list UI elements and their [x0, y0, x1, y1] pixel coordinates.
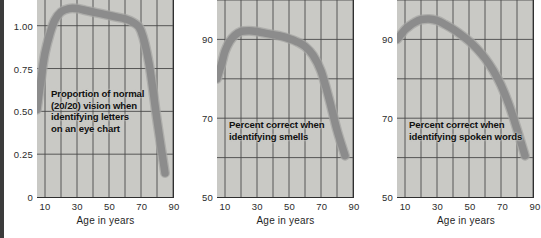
- x-tick-label: 90: [169, 201, 180, 212]
- y-tick-label: 0.75: [14, 64, 33, 73]
- x-tick-label: 10: [40, 201, 51, 212]
- panel-caption-smell: Percent correct when identifying smells: [229, 119, 357, 142]
- chart-panel-vision: 00.250.500.751.00 1030507090 Proportion …: [4, 0, 180, 238]
- x-tick-label: 50: [104, 201, 115, 212]
- y-tick-label: 70: [382, 114, 393, 123]
- y-axis-ticks-speech: 507090: [364, 0, 393, 197]
- x-tick-label: 50: [465, 201, 476, 212]
- x-tick-label: 70: [316, 201, 327, 212]
- x-tick-label: 30: [432, 201, 443, 212]
- x-axis-ticks-vision: 1030507090: [37, 198, 174, 214]
- y-tick-label: 0.25: [14, 150, 33, 159]
- x-tick-label: 70: [497, 201, 508, 212]
- x-tick-label: 30: [252, 201, 263, 212]
- chart-panel-smell: 507090 1030507090 Percent correct when i…: [184, 0, 360, 238]
- y-tick-label: 1.00: [14, 21, 33, 30]
- x-tick-label: 90: [530, 201, 541, 212]
- y-tick-label: 50: [202, 193, 213, 202]
- plot-svg-speech: [397, 0, 533, 197]
- y-axis-ticks-vision: 00.250.500.751.00: [4, 0, 33, 197]
- x-axis-label-speech: Age in years: [397, 215, 535, 226]
- x-axis-ticks-smell: 1030507090: [217, 198, 354, 214]
- plot-area-speech: [397, 0, 534, 198]
- x-tick-label: 50: [284, 201, 295, 212]
- x-tick-label: 90: [349, 201, 360, 212]
- plot-svg-smell: [217, 0, 353, 197]
- y-tick-label: 90: [202, 35, 213, 44]
- x-axis-ticks-speech: 1030507090: [397, 198, 535, 214]
- panel-caption-vision: Proportion of normal (20/20) vision when…: [51, 88, 176, 134]
- plot-area-smell: [217, 0, 354, 198]
- y-tick-label: 90: [382, 35, 393, 44]
- x-axis-label-smell: Age in years: [217, 215, 354, 226]
- chart-panel-speech: 507090 1030507090 Percent correct when i…: [364, 0, 541, 238]
- x-tick-label: 30: [72, 201, 83, 212]
- x-tick-label: 70: [136, 201, 147, 212]
- y-tick-label: 50: [382, 193, 393, 202]
- x-tick-label: 10: [400, 201, 411, 212]
- panel-caption-speech: Percent correct when identifying spoken …: [409, 119, 541, 142]
- three-panel-line-chart-figure: 00.250.500.751.00 1030507090 Proportion …: [0, 0, 541, 238]
- y-tick-label: 0: [28, 193, 33, 202]
- y-tick-label: 70: [202, 114, 213, 123]
- x-tick-label: 10: [220, 201, 231, 212]
- x-axis-label-vision: Age in years: [37, 215, 174, 226]
- y-axis-ticks-smell: 507090: [184, 0, 213, 197]
- y-tick-label: 0.50: [14, 107, 33, 116]
